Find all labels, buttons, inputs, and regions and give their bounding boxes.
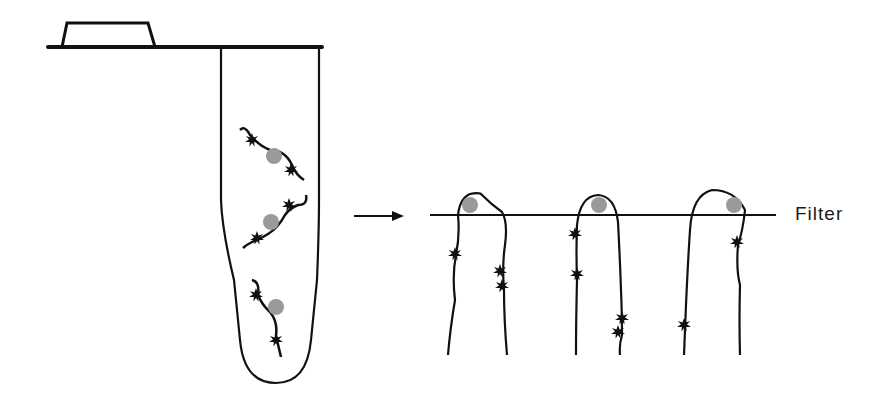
filter-label: Filter xyxy=(795,203,843,225)
tube-cap xyxy=(62,23,155,47)
protein-icon xyxy=(263,214,279,230)
protein-icon xyxy=(726,197,742,213)
label-star-icon xyxy=(284,163,298,177)
tube-fragment-1 xyxy=(240,128,304,180)
filter-binding-diagram xyxy=(0,0,884,404)
label-star-icon xyxy=(495,279,509,293)
label-star-icon xyxy=(269,333,283,347)
tube-fragment-2 xyxy=(243,195,306,248)
filter-fragment-2 xyxy=(568,195,629,355)
label-star-icon xyxy=(493,264,507,278)
tube xyxy=(48,23,322,383)
label-star-icon xyxy=(568,227,582,241)
label-star-icon xyxy=(245,133,259,147)
protein-icon xyxy=(266,148,282,164)
filter-fragment-1 xyxy=(448,193,509,355)
right-arrow-icon xyxy=(354,211,404,221)
tube-fragment-3 xyxy=(249,280,284,357)
protein-icon xyxy=(591,197,607,213)
protein-icon xyxy=(462,197,478,213)
protein-icon xyxy=(268,299,284,315)
